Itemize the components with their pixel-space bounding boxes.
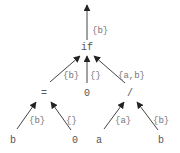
edge-label-a-div: {a} (115, 116, 131, 126)
edge-label-zero-eq: {} (66, 116, 77, 126)
node-b-left: b (10, 135, 16, 146)
expression-tree-diagram: {b} if {b} {} {a,b} = 0 / {b} {} {a} {b}… (0, 0, 180, 153)
edge-label-b-div: {b} (153, 116, 169, 126)
edge-label-div-if: {a,b} (118, 71, 145, 81)
node-zero-mid: 0 (84, 88, 90, 99)
node-if: if (81, 42, 93, 53)
edge-label-zero-if: {} (90, 71, 101, 81)
edge-label-eq-if: {b} (63, 71, 79, 81)
edge-label-root: {b} (92, 26, 108, 36)
node-eq: = (41, 88, 47, 99)
node-zero-left: 0 (72, 135, 78, 146)
edge-label-b-eq: {b} (29, 116, 45, 126)
node-b-right: b (158, 135, 164, 146)
node-a: a (96, 135, 102, 146)
node-div: / (127, 88, 133, 99)
